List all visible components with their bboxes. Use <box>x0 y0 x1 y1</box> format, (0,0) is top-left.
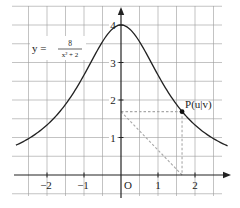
function-graph: −2−1121234 P(u|v) O y = 8 x² + 2 <box>0 0 240 208</box>
y-tick-label: 4 <box>110 19 116 31</box>
y-tick-label: 3 <box>110 57 116 69</box>
construction-lines <box>121 112 182 175</box>
point-p[interactable] <box>180 109 185 114</box>
x-tick-label: 1 <box>155 179 161 191</box>
x-tick-label: −2 <box>40 179 52 191</box>
x-axis-arrow-icon <box>223 172 231 178</box>
y-tick-label: 1 <box>110 132 116 144</box>
dashed-line-diagonal <box>121 112 182 175</box>
y-axis-arrow-icon <box>118 7 124 15</box>
function-label-numerator: 8 <box>68 39 72 48</box>
point-p-label: P(u|v) <box>185 98 212 111</box>
x-tick-label: 2 <box>192 179 198 191</box>
origin-label: O <box>124 179 132 191</box>
function-label-lhs: y = <box>32 42 46 54</box>
function-label: y = 8 x² + 2 <box>30 36 86 60</box>
x-tick-label: −1 <box>77 179 89 191</box>
y-tick-label: 2 <box>110 94 116 106</box>
function-label-denominator: x² + 2 <box>62 51 79 59</box>
